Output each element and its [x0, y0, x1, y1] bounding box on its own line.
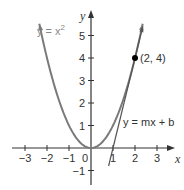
point-2-4 [132, 55, 138, 61]
y-tick-label: 5 [79, 30, 85, 42]
tangent-label: y = mx + b [123, 116, 174, 128]
x-tick-label: 2 [132, 152, 138, 164]
x-tick-label: 3 [154, 152, 160, 164]
point-label: (2, 4) [140, 52, 166, 64]
tangent-line [109, 27, 143, 167]
y-tick-label: 4 [79, 52, 85, 64]
y-axis-arrow [88, 10, 94, 18]
x-tick-label: −3 [19, 152, 32, 164]
x-axis-arrow [167, 145, 175, 151]
x-tick-label: 0 [82, 152, 88, 164]
x-axis-label: x [174, 152, 181, 166]
y-tick-label: 2 [79, 97, 85, 109]
x-tick-label: −1 [63, 152, 76, 164]
x-tick-label: −2 [41, 152, 54, 164]
y-tick-label: 3 [79, 75, 85, 87]
parabola-label: y = x2 [37, 23, 66, 37]
y-tick-label: −1 [72, 165, 85, 177]
y-tick-label: 1 [79, 120, 85, 132]
y-axis-label: y [79, 9, 86, 23]
chart: −3−2−10123−112345 x y (2, 4) y = x2 y = … [0, 0, 184, 190]
